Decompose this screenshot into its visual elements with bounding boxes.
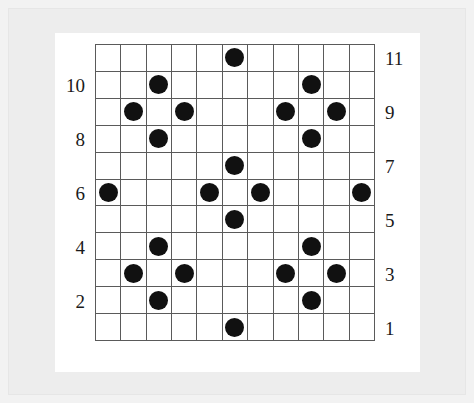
grid-cell bbox=[197, 126, 222, 153]
grid-cell bbox=[324, 72, 349, 99]
grid-cell bbox=[96, 99, 121, 126]
grid-cell bbox=[248, 314, 273, 341]
grid-cell bbox=[147, 126, 172, 153]
grid-cell bbox=[274, 99, 299, 126]
left-axis-label: 4 bbox=[45, 238, 85, 257]
grid-cell bbox=[121, 45, 146, 72]
right-axis-label: 9 bbox=[385, 103, 425, 122]
grid-cell bbox=[274, 72, 299, 99]
lattice-dot bbox=[302, 129, 321, 148]
grid-cell bbox=[147, 72, 172, 99]
grid-cell bbox=[350, 206, 375, 233]
right-axis-label: 7 bbox=[385, 157, 425, 176]
grid-cell bbox=[197, 153, 222, 180]
grid-cell bbox=[350, 45, 375, 72]
lattice-dot bbox=[225, 48, 244, 67]
grid-cell bbox=[197, 233, 222, 260]
grid-cell bbox=[274, 45, 299, 72]
grid-cell bbox=[350, 233, 375, 260]
grid-cell bbox=[324, 314, 349, 341]
lattice-dot bbox=[302, 237, 321, 256]
grid-cell bbox=[197, 180, 222, 207]
grid-cell bbox=[299, 314, 324, 341]
right-axis-label: 11 bbox=[385, 49, 425, 68]
grid-cell bbox=[147, 206, 172, 233]
right-axis-labels: 1197531 bbox=[385, 44, 425, 341]
grid-cell bbox=[223, 180, 248, 207]
grid-cell bbox=[223, 287, 248, 314]
grid-cell bbox=[324, 45, 349, 72]
grid-cell bbox=[274, 287, 299, 314]
grid-cell bbox=[324, 206, 349, 233]
grid-cell bbox=[121, 153, 146, 180]
left-axis-labels: 108642 bbox=[45, 44, 85, 341]
grid-cell bbox=[350, 99, 375, 126]
grid-cell bbox=[172, 206, 197, 233]
grid-cell bbox=[223, 233, 248, 260]
left-axis-label: 10 bbox=[45, 76, 85, 95]
grid-cell bbox=[121, 260, 146, 287]
grid-cell bbox=[96, 206, 121, 233]
lattice-dot bbox=[225, 318, 244, 337]
grid-cell bbox=[172, 153, 197, 180]
grid-cell bbox=[299, 99, 324, 126]
grid-cell bbox=[299, 206, 324, 233]
lattice-dot bbox=[276, 102, 295, 121]
grid-cell bbox=[248, 180, 273, 207]
grid-cell bbox=[274, 153, 299, 180]
grid-cell bbox=[197, 72, 222, 99]
grid-cell bbox=[324, 153, 349, 180]
grid-cell bbox=[248, 126, 273, 153]
left-axis-label: 2 bbox=[45, 292, 85, 311]
grid-cell bbox=[324, 233, 349, 260]
grid-cell bbox=[172, 45, 197, 72]
grid-cell bbox=[147, 314, 172, 341]
grid-cell bbox=[350, 180, 375, 207]
grid-cell bbox=[172, 72, 197, 99]
grid-cell bbox=[248, 72, 273, 99]
grid-cell bbox=[197, 260, 222, 287]
grid-cell bbox=[121, 287, 146, 314]
grid-cell bbox=[350, 72, 375, 99]
grid-cell bbox=[197, 287, 222, 314]
grid-cell bbox=[96, 45, 121, 72]
grid-cell bbox=[121, 233, 146, 260]
grid-cell bbox=[299, 233, 324, 260]
lattice-dot bbox=[149, 129, 168, 148]
grid-cell bbox=[324, 180, 349, 207]
grid-cell bbox=[324, 99, 349, 126]
lattice-dot bbox=[225, 156, 244, 175]
lattice-dot bbox=[352, 183, 371, 202]
grid-cell bbox=[121, 180, 146, 207]
grid-cell bbox=[248, 153, 273, 180]
grid-cell bbox=[223, 153, 248, 180]
grid-cell bbox=[299, 260, 324, 287]
grid-cell bbox=[274, 260, 299, 287]
grid-cell bbox=[96, 153, 121, 180]
grid-cell bbox=[223, 260, 248, 287]
grid-cell bbox=[172, 233, 197, 260]
grid-cell bbox=[223, 206, 248, 233]
grid-cell bbox=[223, 314, 248, 341]
grid-cell bbox=[96, 260, 121, 287]
grid-cell bbox=[96, 180, 121, 207]
grid-cell bbox=[172, 260, 197, 287]
grid-cell bbox=[96, 126, 121, 153]
grid-cell bbox=[172, 180, 197, 207]
lattice-grid bbox=[95, 44, 375, 341]
grid-cell bbox=[121, 206, 146, 233]
grid-cell bbox=[96, 233, 121, 260]
grid-cell bbox=[299, 180, 324, 207]
lattice-dot bbox=[124, 264, 143, 283]
grid-cell bbox=[172, 99, 197, 126]
grid-cell bbox=[172, 287, 197, 314]
grid-cell bbox=[197, 206, 222, 233]
grid-cell bbox=[121, 99, 146, 126]
right-axis-label: 1 bbox=[385, 319, 425, 338]
lattice-dot bbox=[251, 183, 270, 202]
grid-cell bbox=[223, 72, 248, 99]
grid-cell bbox=[248, 45, 273, 72]
grid-cell bbox=[147, 233, 172, 260]
grid-cell bbox=[147, 45, 172, 72]
grid-cell bbox=[248, 99, 273, 126]
